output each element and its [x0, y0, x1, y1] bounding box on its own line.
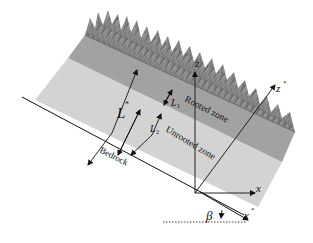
z-star-axis-label: z [275, 82, 281, 94]
z-star-sup: * [283, 79, 287, 87]
x-star-sup: * [251, 206, 255, 214]
x-axis-label: x [255, 182, 261, 194]
bedrock-label: Bedrock [98, 145, 130, 168]
beta-angle-label: β [205, 208, 213, 223]
total-depth-sup: * [125, 100, 129, 109]
unrooted-depth-label: L [149, 123, 156, 134]
unrooted-depth-sub: 2 [156, 129, 159, 135]
z-axis-label: z [194, 57, 200, 69]
x-star-axis-label: x [243, 209, 249, 221]
beta-angle-arrow [221, 210, 222, 218]
total-depth-label: L [116, 105, 125, 121]
slope-diagram: L * L 1 Rooted zone L 2 Unrooted zone Be… [0, 0, 313, 243]
rooted-depth-label: L [170, 97, 177, 108]
rooted-depth-sub: 1 [177, 103, 180, 109]
